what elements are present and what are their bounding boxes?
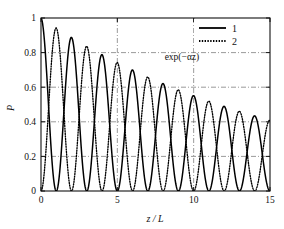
legend: 1 2 (194, 19, 268, 51)
envelope-annotation-label: exp(−αz) (165, 52, 200, 63)
chart-figure: 051015 00.20.40.60.81 z / L P exp(−αz) 1… (0, 0, 284, 229)
x-tick-label: 10 (189, 195, 199, 205)
y-tick-label: 0.6 (24, 83, 36, 93)
x-tick-label: 15 (265, 195, 275, 205)
y-tick-label: 0.8 (24, 48, 36, 58)
x-tick-label: 5 (115, 195, 120, 205)
legend-label-series-1: 1 (232, 23, 237, 34)
y-tick-label: 0.2 (24, 152, 36, 162)
chart-canvas: 051015 00.20.40.60.81 z / L P exp(−αz) 1… (0, 0, 284, 229)
legend-background (194, 19, 268, 51)
legend-label-series-2: 2 (232, 36, 237, 47)
y-axis-title: P (5, 105, 16, 112)
y-tick-label: 0 (31, 186, 36, 196)
y-tick-label: 1 (31, 13, 36, 23)
x-tick-label: 0 (39, 195, 44, 205)
y-tick-label: 0.4 (24, 117, 36, 127)
x-axis-title: z / L (145, 213, 164, 224)
